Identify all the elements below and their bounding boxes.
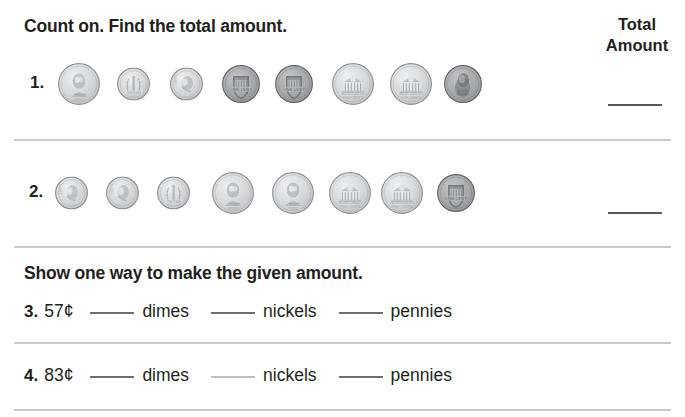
item-number-3: 3.: [24, 302, 38, 322]
dimes-blank-4[interactable]: [90, 376, 134, 378]
coin-nickel-obverse: 2014: [58, 63, 100, 109]
coin-dime-reverse: ONE DIME: [157, 177, 190, 214]
divider-2: [14, 246, 671, 248]
pennies-blank-3[interactable]: [339, 312, 383, 314]
coin-penny-reverse: ONE CENT: [222, 65, 260, 107]
coin-nickel-reverse: MONTICELLO FIVE CENTS: [381, 172, 423, 218]
nickels-label-4: nickels: [263, 365, 317, 386]
nickels-label-3: nickels: [263, 301, 317, 322]
coin-penny-obverse: [444, 65, 482, 107]
item-number-1: 1.: [30, 73, 44, 93]
amount-value-4: 83¢: [44, 365, 73, 386]
pennies-label-4: pennies: [391, 365, 452, 386]
coin-dime-obverse: LIBERTY: [55, 177, 88, 214]
svg-text:FIVE CENTS: FIVE CENTS: [401, 96, 422, 100]
nickels-blank-4[interactable]: [211, 376, 255, 378]
item-number-2: 2.: [29, 182, 43, 202]
svg-text:LIBERTY: LIBERTY: [110, 182, 114, 194]
divider-3: [14, 342, 671, 344]
svg-text:FIVE CENTS: FIVE CENTS: [340, 205, 361, 209]
svg-text:ONE CENT: ONE CENT: [445, 196, 467, 201]
svg-text:2014: 2014: [288, 206, 298, 211]
svg-text:ONE DIME: ONE DIME: [126, 91, 141, 95]
amount-value-3: 57¢: [44, 301, 73, 322]
coin-dime-obverse: LIBERTY: [170, 68, 203, 105]
coin-penny-reverse: ONE CENT: [275, 65, 313, 107]
coin-dime-reverse: ONE DIME: [117, 68, 150, 105]
coin-nickel-reverse: MONTICELLO FIVE CENTS: [390, 63, 432, 109]
svg-text:2014: 2014: [228, 206, 238, 211]
svg-text:LIBERTY: LIBERTY: [174, 73, 178, 85]
instruction-show-one-way: Show one way to make the given amount.: [24, 263, 363, 284]
coin-dime-obverse: LIBERTY: [106, 177, 139, 214]
item-number-4: 4.: [24, 366, 38, 386]
make-amount-item-4: 4. 83¢ dimes nickels pennies: [24, 365, 452, 386]
answer-blank-item-2[interactable]: [608, 212, 662, 214]
dimes-label-4: dimes: [142, 365, 189, 386]
dimes-label-3: dimes: [142, 301, 189, 322]
svg-text:ONE CENT: ONE CENT: [230, 87, 252, 92]
worksheet-page: Count on. Find the total amount. Total A…: [0, 0, 685, 417]
svg-text:ONE CENT: ONE CENT: [283, 87, 305, 92]
instruction-count-on: Count on. Find the total amount.: [24, 16, 287, 37]
total-amount-header: Total Amount: [591, 14, 683, 56]
coin-nickel-obverse: 2014: [212, 172, 254, 218]
coin-penny-reverse: ONE CENT: [437, 174, 475, 216]
nickels-blank-3[interactable]: [211, 312, 255, 314]
count-on-item-2: 2. LIBERTY: [0, 164, 685, 228]
total-amount-header-line1: Total: [591, 14, 683, 35]
make-amount-item-3: 3. 57¢ dimes nickels pennies: [24, 301, 452, 322]
divider-4: [14, 409, 671, 411]
coin-nickel-obverse: 2014: [272, 172, 314, 218]
svg-text:LIBERTY: LIBERTY: [59, 182, 63, 194]
svg-text:2014: 2014: [74, 97, 84, 102]
answer-blank-item-1[interactable]: [608, 104, 662, 106]
count-on-item-1: 1. 2014: [0, 55, 685, 117]
divider-1: [14, 139, 671, 141]
svg-text:FIVE CENTS: FIVE CENTS: [343, 96, 364, 100]
svg-text:ONE DIME: ONE DIME: [166, 200, 181, 204]
dimes-blank-3[interactable]: [90, 312, 134, 314]
coin-nickel-reverse: MONTICELLO FIVE CENTS: [332, 63, 374, 109]
pennies-label-3: pennies: [391, 301, 452, 322]
coin-nickel-reverse: MONTICELLO FIVE CENTS: [329, 172, 371, 218]
svg-text:FIVE CENTS: FIVE CENTS: [392, 205, 413, 209]
pennies-blank-4[interactable]: [339, 376, 383, 378]
total-amount-header-line2: Amount: [591, 35, 683, 56]
